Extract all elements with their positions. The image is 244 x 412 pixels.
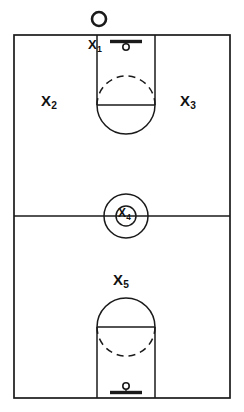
player-label-x2: X2 [41, 93, 56, 108]
player-label-x4-base: X [118, 206, 126, 220]
bottom-free-throw-arc-dashed [97, 327, 155, 356]
player-label-x3-base: X [180, 92, 190, 109]
player-label-x3-sub: 3 [190, 100, 195, 111]
player-label-x4-sub: 4 [126, 213, 130, 222]
player-label-x2-base: X [41, 92, 51, 109]
ball-icon [92, 12, 106, 26]
bottom-rim-icon [123, 383, 129, 389]
top-free-throw-arc-solid [97, 105, 155, 134]
player-label-x4: X4 [118, 207, 130, 219]
player-label-x1: X1 [88, 38, 101, 51]
player-label-x5-base: X [113, 271, 123, 288]
bottom-free-throw-arc-solid [97, 298, 155, 327]
top-free-throw-arc-dashed [97, 76, 155, 105]
player-label-x5-sub: 5 [123, 279, 128, 290]
basketball-court-diagram: X1 X2 X3 X4 X5 [0, 0, 244, 412]
top-rim-icon [123, 44, 129, 50]
player-label-x1-base: X [88, 37, 96, 52]
player-label-x2-sub: 2 [51, 100, 56, 111]
player-label-x3: X3 [180, 93, 195, 108]
player-label-x5: X5 [113, 272, 128, 287]
player-label-x1-sub: 1 [97, 44, 102, 54]
